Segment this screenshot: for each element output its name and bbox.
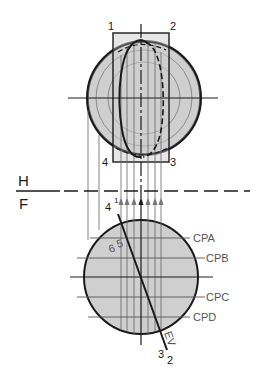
projection-arrows — [119, 197, 164, 205]
cutting-plane-label-a: CPA — [193, 232, 215, 244]
cutting-plane-label-c: CPC — [206, 291, 229, 303]
edge-label-1: 1 — [114, 196, 119, 205]
edge-label-4: 4 — [105, 201, 111, 213]
edge-label-2: 2 — [167, 354, 173, 366]
descriptive-geometry-figure: 1 2 3 4 H F — [0, 0, 261, 376]
fold-line: H F — [16, 172, 250, 212]
top-view: 1 2 3 4 — [68, 20, 218, 240]
edge-label-3: 3 — [158, 348, 164, 360]
cutting-plane-label-d: CPD — [193, 311, 216, 323]
corner-label-1: 1 — [108, 20, 114, 32]
front-view: 4 1 3 2 EV 6 5 CPA CPB CPC CPD — [70, 196, 229, 366]
fold-label-f: F — [19, 195, 28, 212]
corner-label-3: 3 — [170, 156, 176, 168]
corner-label-4: 4 — [102, 156, 108, 168]
corner-label-2: 2 — [170, 20, 176, 32]
cutting-plane-label-b: CPB — [206, 252, 229, 264]
fold-label-h: H — [18, 172, 29, 189]
